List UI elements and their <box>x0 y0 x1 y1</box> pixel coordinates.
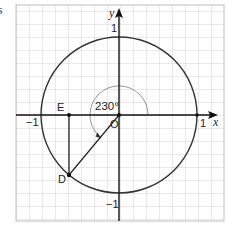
y-axis-label: y <box>108 6 115 20</box>
point-label-D: D <box>58 173 66 185</box>
point-x1 <box>195 113 199 117</box>
point-label-E: E <box>57 101 64 113</box>
x-axis-label: x <box>212 115 219 129</box>
angle-label: 230° <box>95 100 119 112</box>
tick-label-x-pos: 1 <box>200 117 206 129</box>
point-origin <box>117 113 121 117</box>
point-label-origin: O <box>110 118 119 130</box>
tick-label-x-neg: −1 <box>26 116 39 128</box>
point-D <box>67 173 71 177</box>
point-E <box>67 113 71 117</box>
tick-label-y-pos: 1 <box>111 22 117 34</box>
unit-circle-diagram: y x 1 −1 −1 1 230° O E D <box>0 0 226 231</box>
tick-label-y-neg: −1 <box>106 198 119 210</box>
